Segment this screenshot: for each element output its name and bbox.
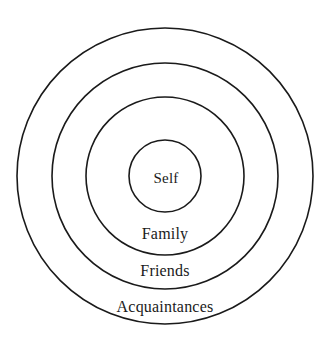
- concentric-circles-diagram: Acquaintances Friends Family Self: [0, 0, 331, 349]
- ring-label-friends: Friends: [140, 263, 189, 279]
- ring-label-self: Self: [154, 171, 179, 186]
- ring-label-acquaintances: Acquaintances: [117, 299, 214, 315]
- ring-label-family: Family: [142, 226, 189, 242]
